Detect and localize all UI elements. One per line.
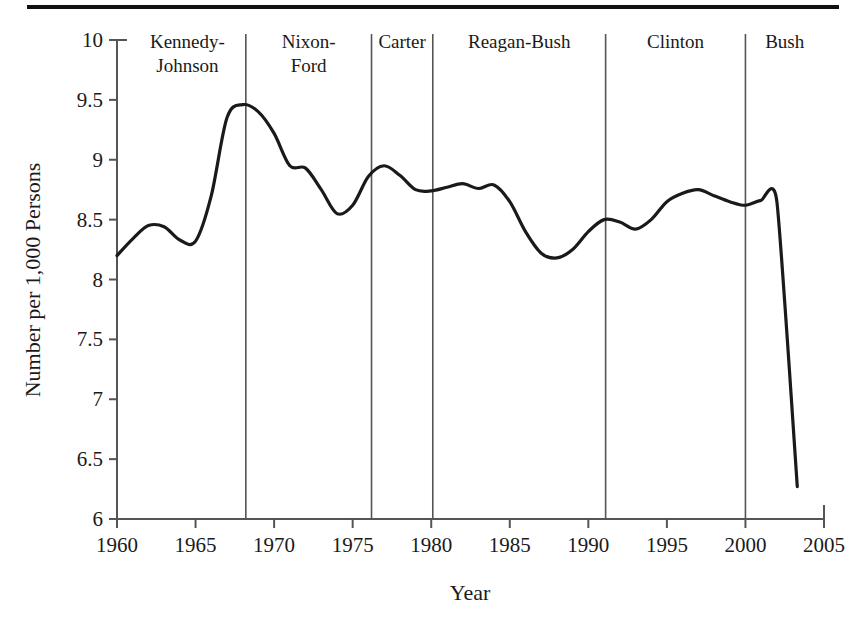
x-tick-label: 2000 xyxy=(724,533,766,557)
era-label-line: Bush xyxy=(765,31,805,52)
chart-figure: 66.577.588.599.510 196019651970197519801… xyxy=(0,0,866,637)
era-divider-group xyxy=(246,34,746,519)
x-tick-label: 1990 xyxy=(567,533,609,557)
y-tick-label: 9.5 xyxy=(77,88,103,112)
x-tick-label: 1970 xyxy=(253,533,295,557)
era-label-clinton: Clinton xyxy=(647,31,705,52)
y-tick-label: 7 xyxy=(93,387,104,411)
x-tick-group: 1960196519701975198019851990199520002005 xyxy=(96,519,845,557)
era-label-bush: Bush xyxy=(765,31,805,52)
x-tick-label: 1960 xyxy=(96,533,138,557)
era-label-nixon-ford: Nixon-Ford xyxy=(282,31,336,76)
y-tick-label: 6.5 xyxy=(77,447,103,471)
era-label-line: Clinton xyxy=(647,31,705,52)
y-tick-label: 9 xyxy=(93,148,104,172)
era-label-line: Johnson xyxy=(156,55,219,76)
era-label-line: Nixon- xyxy=(282,31,336,52)
x-tick-label: 1985 xyxy=(489,533,531,557)
axes-group xyxy=(117,40,824,519)
x-tick-label: 1965 xyxy=(175,533,217,557)
x-tick-label: 2005 xyxy=(803,533,845,557)
x-tick-label: 1980 xyxy=(410,533,452,557)
era-label-group: Kennedy-JohnsonNixon-FordCarterReagan-Bu… xyxy=(150,31,805,76)
era-label-carter: Carter xyxy=(378,31,426,52)
y-tick-label: 6 xyxy=(93,507,104,531)
era-label-reagan-bush: Reagan-Bush xyxy=(468,31,571,52)
y-tick-label: 10 xyxy=(82,28,103,52)
x-axis-title: Year xyxy=(450,580,491,605)
era-label-line: Ford xyxy=(291,55,327,76)
y-tick-group: 66.577.588.599.510 xyxy=(77,28,117,531)
x-tick-label: 1975 xyxy=(332,533,374,557)
era-label-kennedy-johnson: Kennedy-Johnson xyxy=(150,31,225,76)
data-series-line xyxy=(117,104,797,486)
y-axis-title: Number per 1,000 Persons xyxy=(20,163,45,398)
x-tick-label: 1995 xyxy=(646,533,688,557)
y-tick-label: 8 xyxy=(93,268,104,292)
era-label-line: Kennedy- xyxy=(150,31,225,52)
era-label-line: Carter xyxy=(378,31,426,52)
line-chart-svg: 66.577.588.599.510 196019651970197519801… xyxy=(0,0,866,637)
y-tick-label: 8.5 xyxy=(77,208,103,232)
y-tick-label: 7.5 xyxy=(77,327,103,351)
era-label-line: Reagan-Bush xyxy=(468,31,571,52)
